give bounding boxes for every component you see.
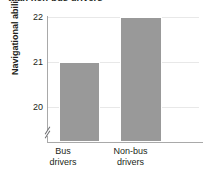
x-axis-label-bus-drivers: Bus drivers: [40, 146, 86, 168]
x-axis-label-bus-drivers-line1: Bus: [40, 146, 86, 157]
bar-chart-figure: than non-bus drivers Navigational abilit…: [0, 0, 203, 172]
x-axis-line: [47, 142, 203, 143]
bar-non-bus-drivers: [120, 17, 162, 142]
bar-bus-drivers: [59, 62, 100, 142]
x-axis-label-non-bus-drivers-line2: drivers: [98, 157, 163, 168]
y-tick-label-21: 21: [27, 58, 43, 67]
x-axis-label-non-bus-drivers-line1: Non-bus: [98, 146, 163, 157]
y-axis-line: [47, 16, 48, 130]
x-axis-label-non-bus-drivers: Non-bus drivers: [98, 146, 163, 168]
y-axis-title: Navigational ability: [9, 0, 21, 89]
y-axis-tick-labels: 22 21 20: [24, 0, 43, 142]
y-tick-label-22: 22: [27, 13, 43, 22]
x-axis-label-bus-drivers-line2: drivers: [40, 157, 86, 168]
plot-area: [47, 16, 203, 142]
y-tick-label-20: 20: [27, 103, 43, 112]
